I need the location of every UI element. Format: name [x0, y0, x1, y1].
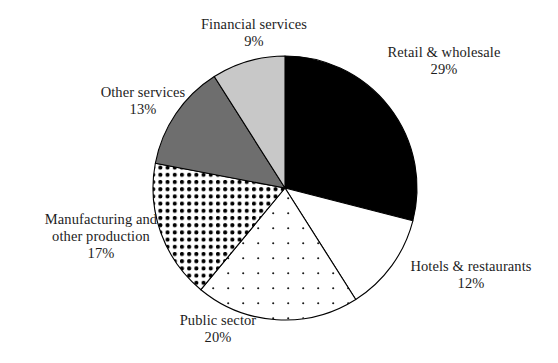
slice-label-manufacturing: Manufacturing and other production 17% [16, 211, 186, 262]
slice-label-text-line1: Manufacturing and [16, 211, 186, 228]
slice-label-percent: 29% [346, 61, 542, 78]
slice-label-percent: 20% [138, 329, 298, 346]
slice-label-percent: 17% [16, 245, 186, 262]
slice-label-text: Retail & wholesale [346, 44, 542, 61]
slice-label-hotels-restaurants: Hotels & restaurants 12% [388, 258, 554, 292]
slice-label-retail-wholesale: Retail & wholesale 29% [346, 44, 542, 78]
slice-label-text: Other services [62, 84, 224, 101]
slice-label-percent: 9% [162, 33, 346, 50]
slice-label-text: Public sector [138, 312, 298, 329]
slice-label-percent: 12% [388, 275, 554, 292]
slice-label-text-line2: other production [16, 228, 186, 245]
slice-label-percent: 13% [62, 101, 224, 118]
slice-label-other-services: Other services 13% [62, 84, 224, 118]
pie-chart-page: Financial services 9% Retail & wholesale… [0, 0, 558, 363]
slice-label-financial-services: Financial services 9% [162, 16, 346, 50]
slice-label-public-sector: Public sector 20% [138, 312, 298, 346]
slice-label-text: Hotels & restaurants [388, 258, 554, 275]
slice-label-text: Financial services [162, 16, 346, 33]
